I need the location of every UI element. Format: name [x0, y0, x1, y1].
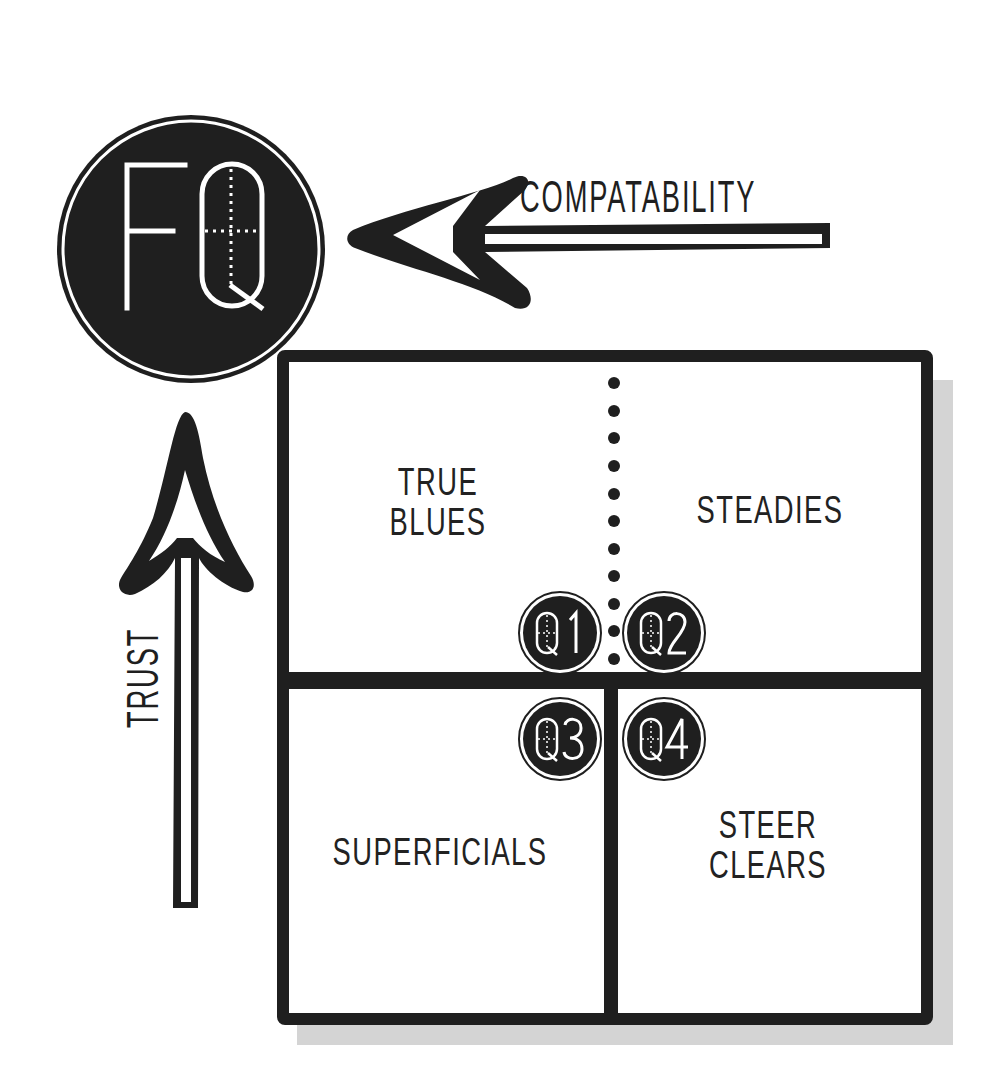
badge-q3: Q3: [518, 697, 602, 781]
quadrant-label-steadies: STEADIES: [684, 490, 857, 530]
quadrant-label-line: SUPERFICIALS: [332, 832, 548, 872]
quadrant-label-true-blues: TRUE BLUES: [366, 462, 510, 542]
axis-label-trust: TRUST: [118, 628, 168, 728]
quadrant-label-line: CLEARS: [696, 845, 840, 885]
quadrant-label-steer-clears: STEER CLEARS: [696, 805, 840, 885]
axis-label-compatability: COMPATABILITY: [520, 172, 756, 222]
quadrant-label-superficials: SUPERFICIALS: [332, 832, 548, 872]
badge-q2: Q2: [622, 591, 706, 675]
fq-logo-icon: FQ: [55, 113, 327, 385]
dotted-divider: [606, 375, 622, 675]
quadrant-label-line: STEADIES: [684, 490, 857, 530]
badge-q4: Q4: [622, 697, 706, 781]
quadrant-label-line: TRUE: [366, 462, 510, 502]
badge-q1: Q1: [518, 591, 602, 675]
vertical-divider: [604, 684, 618, 1014]
quadrant-label-line: STEER: [696, 805, 840, 845]
quadrant-label-line: BLUES: [366, 502, 510, 542]
